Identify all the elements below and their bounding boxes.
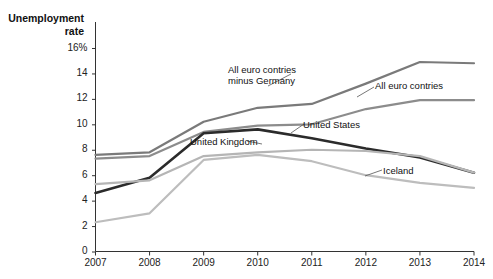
x-tick-label-2012: 2012 bbox=[346, 257, 386, 268]
y-tick-label-0: 0 bbox=[48, 245, 88, 256]
x-tick-label-2008: 2008 bbox=[130, 257, 170, 268]
y-tick-label-4: 4 bbox=[48, 194, 88, 205]
series-label-united-kingdom-text: United Kingdom bbox=[190, 136, 258, 147]
series-label-all-euro-contries: All euro contries bbox=[375, 80, 443, 91]
y-tick-label-14: 14 bbox=[48, 67, 88, 78]
y-tick-label-16: 16% bbox=[48, 42, 88, 53]
series-label-united-states-text: United States bbox=[303, 119, 360, 130]
series-label-all-euro-contries-text: All euro contries bbox=[375, 80, 443, 91]
x-tick-label-2011: 2011 bbox=[292, 257, 332, 268]
x-tick-label-2009: 2009 bbox=[184, 257, 224, 268]
y-tick-label-6: 6 bbox=[48, 169, 88, 180]
x-tick-label-2014: 2014 bbox=[454, 257, 493, 268]
leader-iceland bbox=[365, 170, 382, 176]
series-label-all-euro-minus-germany-line2: minus Germany bbox=[228, 75, 295, 86]
y-tick-label-8: 8 bbox=[48, 143, 88, 154]
leader-all-euro-contries bbox=[357, 87, 374, 97]
x-tick-label-2013: 2013 bbox=[400, 257, 440, 268]
series-label-united-states: United States bbox=[303, 119, 360, 130]
series-label-all-euro-minus-germany: All euro contries minus Germany bbox=[228, 64, 296, 86]
unemployment-rate-line-chart: Unemployment rate 0246810121416% 2007200… bbox=[0, 0, 493, 279]
y-tick-label-10: 10 bbox=[48, 118, 88, 129]
y-tick-label-12: 12 bbox=[48, 92, 88, 103]
x-axis-ticks bbox=[96, 252, 475, 256]
series-line-iceland bbox=[96, 155, 475, 222]
series-label-iceland: Iceland bbox=[383, 165, 414, 176]
y-tick-label-2: 2 bbox=[48, 220, 88, 231]
series-label-all-euro-minus-germany-line1: All euro contries bbox=[228, 64, 296, 75]
series-label-iceland-text: Iceland bbox=[383, 165, 414, 176]
x-tick-label-2010: 2010 bbox=[238, 257, 278, 268]
series-label-united-kingdom: United Kingdom bbox=[190, 136, 258, 147]
x-tick-label-2007: 2007 bbox=[76, 257, 116, 268]
